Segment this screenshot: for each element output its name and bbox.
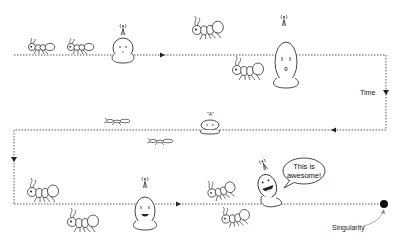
speech-bubble-line-1: This is	[293, 162, 315, 171]
ant-upright-figure	[28, 178, 59, 202]
arrow-right-icon	[176, 202, 181, 207]
flat-ant-figure	[104, 118, 130, 125]
arrow-left-icon	[331, 128, 336, 133]
arrow-down-icon	[11, 157, 17, 162]
robot-laughing-figure	[255, 158, 282, 207]
robot-neutral-figure	[112, 24, 134, 63]
evolution-timeline-diagram: Time "A"	[0, 0, 397, 242]
ant-lying-figure	[220, 202, 251, 228]
ant-lying-figure	[205, 175, 238, 203]
time-label: Time	[360, 89, 375, 96]
arrow-right-icon	[160, 53, 165, 58]
robot-surprised-figure	[274, 15, 299, 88]
singularity-arrow-icon	[363, 212, 383, 226]
singularity-dot	[380, 200, 388, 208]
ant-upright-figure	[68, 208, 99, 232]
flat-ant-figure	[147, 138, 173, 145]
ant-upright-figure	[191, 14, 224, 41]
singularity-label: Singularity	[332, 224, 365, 232]
ant-figure	[67, 38, 93, 54]
speech-bubble-line-2: awesome!	[287, 171, 321, 180]
robot-flat-figure: "A"	[200, 111, 219, 134]
svg-text:"A": "A"	[207, 111, 214, 117]
ant-upright-figure	[233, 56, 264, 80]
singularity-arrowhead-icon	[381, 209, 385, 214]
arrow-down-icon	[383, 90, 389, 95]
robot-smiling-figure	[133, 177, 156, 230]
ant-figure	[28, 38, 54, 54]
timeline-path	[14, 55, 386, 204]
